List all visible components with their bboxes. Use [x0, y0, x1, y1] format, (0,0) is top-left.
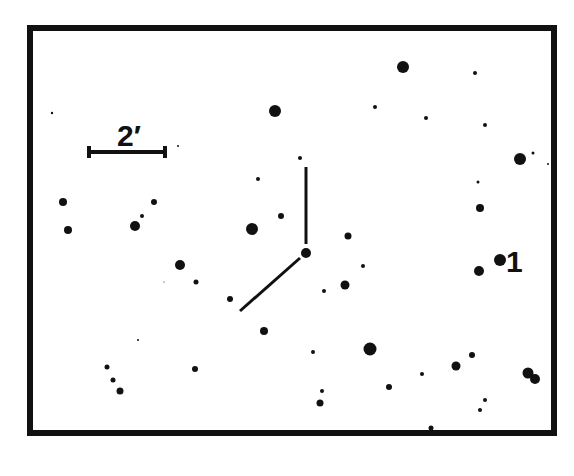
star [140, 214, 144, 218]
star [397, 61, 409, 73]
star [494, 254, 506, 266]
star [483, 398, 487, 402]
star [477, 181, 480, 184]
star [473, 71, 477, 75]
star [452, 362, 461, 371]
star [246, 223, 258, 235]
star [151, 199, 157, 205]
star [163, 281, 164, 282]
star [111, 378, 116, 383]
star [373, 105, 377, 109]
star [51, 112, 53, 114]
star [469, 352, 475, 358]
star [317, 400, 324, 407]
target-marker-lines [240, 167, 306, 311]
star [137, 339, 139, 341]
star [322, 289, 326, 293]
star-field [51, 61, 549, 431]
star [105, 365, 110, 370]
finder-chart: 2′ 1 [0, 0, 574, 476]
star [345, 233, 352, 240]
star [514, 153, 526, 165]
star [64, 226, 72, 234]
target-label: 1 [506, 245, 523, 278]
star [420, 372, 424, 376]
scale-bar: 2′ [89, 119, 165, 158]
star [301, 248, 311, 258]
star [192, 366, 198, 372]
star [532, 152, 535, 155]
star [361, 264, 365, 268]
star [298, 156, 302, 160]
star [59, 198, 67, 206]
star [483, 123, 487, 127]
star [311, 350, 315, 354]
star [386, 384, 392, 390]
star [256, 177, 260, 181]
star [476, 204, 484, 212]
star [424, 116, 428, 120]
star [175, 260, 185, 270]
star [177, 145, 179, 147]
star [341, 281, 350, 290]
star [429, 426, 434, 431]
star [227, 296, 233, 302]
scale-bar-label: 2′ [117, 119, 141, 152]
star [130, 221, 140, 231]
star [547, 163, 549, 165]
star [478, 408, 482, 412]
star [278, 213, 284, 219]
star [260, 327, 268, 335]
star [474, 266, 484, 276]
star [364, 343, 377, 356]
star [269, 105, 281, 117]
star [194, 280, 199, 285]
chart-frame [30, 28, 554, 433]
star [530, 374, 540, 384]
star [320, 389, 324, 393]
marker-line [240, 258, 300, 311]
star [117, 388, 124, 395]
